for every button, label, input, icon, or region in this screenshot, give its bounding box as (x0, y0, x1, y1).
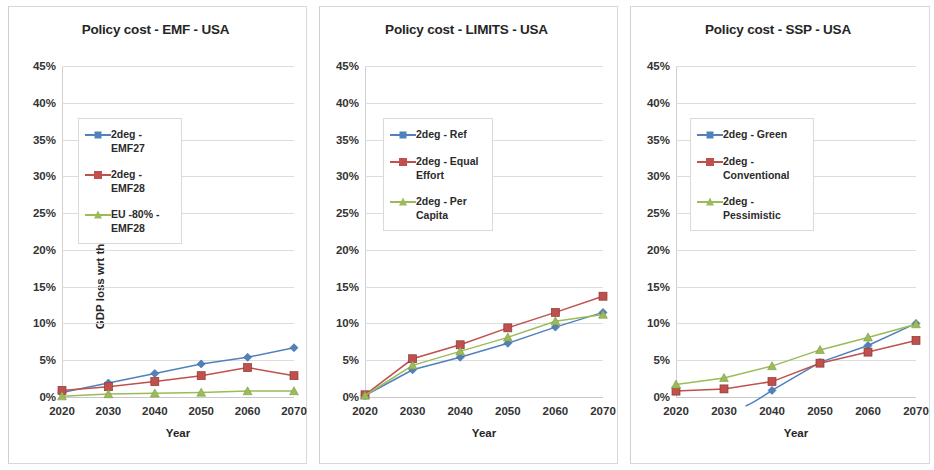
policy-cost-figure: Policy cost - EMF - USA GDP loss wrt the… (0, 0, 934, 470)
y-axis-tick-label: 15% (647, 281, 670, 293)
y-axis-tick-label: 25% (647, 207, 670, 219)
plot-area: 0%5%10%15%20%25%30%35%40%45%202020302040… (62, 66, 294, 397)
chart-panel-emf: Policy cost - EMF - USA GDP loss wrt the… (0, 0, 311, 470)
legend-diamond-marker-icon (697, 128, 723, 142)
legend-square-marker-icon (85, 168, 111, 182)
series-line (365, 315, 603, 396)
legend-item-label: 2deg - Conventional (723, 154, 805, 182)
y-axis-tick-label: 30% (33, 170, 56, 182)
legend-item[interactable]: 2deg - Conventional (697, 154, 805, 182)
y-axis-tick-label: 40% (33, 97, 56, 109)
series-line (365, 312, 603, 395)
y-axis-tick-label: 30% (336, 170, 359, 182)
y-axis-tick-label: 20% (647, 244, 670, 256)
y-axis-tick-label: 45% (647, 60, 670, 72)
chart-legend: 2deg - Ref2deg - Equal Effort2deg - Per … (383, 118, 493, 231)
legend-item-label: 2deg - Green (723, 127, 787, 141)
legend-square-marker-icon (697, 155, 723, 169)
series-line (62, 391, 294, 396)
y-axis-tick-label: 30% (647, 170, 670, 182)
chart-title: Policy cost - SSP - USA (622, 22, 934, 37)
plot-area: 0%5%10%15%20%25%30%35%40%45%202020302040… (676, 66, 916, 397)
series-line (62, 368, 294, 391)
y-axis-tick-label: 25% (336, 207, 359, 219)
y-axis-tick-label: 35% (336, 134, 359, 146)
y-axis-tick-label: 0% (653, 391, 670, 403)
legend-triangle-marker-icon (390, 195, 416, 209)
legend-item[interactable]: 2deg - Per Capita (390, 194, 484, 222)
series-line (365, 296, 603, 395)
y-axis-tick-label: 5% (342, 354, 359, 366)
series-line (676, 324, 916, 384)
legend-item[interactable]: 2deg - EMF28 (85, 167, 173, 195)
y-axis-tick-label: 5% (653, 354, 670, 366)
y-axis-tick-label: 10% (647, 317, 670, 329)
legend-square-marker-icon (390, 155, 416, 169)
legend-item-label: 2deg - Pessimistic (723, 194, 805, 222)
y-axis-tick-label: 25% (33, 207, 56, 219)
legend-triangle-marker-icon (697, 195, 723, 209)
y-axis-tick-label: 45% (336, 60, 359, 72)
y-axis-tick-label: 15% (33, 281, 56, 293)
legend-triangle-marker-icon (85, 208, 111, 222)
y-axis-tick-label: 35% (33, 134, 56, 146)
legend-item-label: 2deg - EMF28 (111, 167, 173, 195)
chart-panel-limits: Policy cost - LIMITS - USA 0%5%10%15%20%… (311, 0, 622, 470)
x-axis-title: Year (365, 427, 603, 439)
series-line-extension (746, 390, 772, 406)
chart-panel-ssp: Policy cost - SSP - USA 0%5%10%15%20%25%… (622, 0, 934, 470)
legend-diamond-marker-icon (390, 128, 416, 142)
y-axis-tick-label: 15% (336, 281, 359, 293)
y-axis-tick-label: 0% (39, 391, 56, 403)
y-axis-tick-label: 20% (33, 244, 56, 256)
y-axis-tick-label: 45% (33, 60, 56, 72)
y-axis-tick-label: 10% (33, 317, 56, 329)
chart-legend: 2deg - EMF272deg - EMF28EU -80% - EMF28 (78, 118, 182, 244)
y-axis-tick-label: 20% (336, 244, 359, 256)
legend-item-label: 2deg - Equal Effort (416, 154, 484, 182)
legend-item-label: 2deg - EMF27 (111, 127, 173, 155)
legend-item[interactable]: 2deg - Equal Effort (390, 154, 484, 182)
chart-legend: 2deg - Green2deg - Conventional2deg - Pe… (690, 118, 814, 231)
legend-item-label: 2deg - Per Capita (416, 194, 484, 222)
legend-item[interactable]: EU -80% - EMF28 (85, 207, 173, 235)
plot-area: 0%5%10%15%20%25%30%35%40%45%202020302040… (365, 66, 603, 397)
legend-item[interactable]: 2deg - EMF27 (85, 127, 173, 155)
legend-item-label: EU -80% - EMF28 (111, 207, 173, 235)
y-axis-tick-label: 0% (342, 391, 359, 403)
series-line (676, 340, 916, 391)
chart-title: Policy cost - EMF - USA (0, 22, 311, 37)
y-axis-tick-label: 35% (647, 134, 670, 146)
y-axis-tick-label: 40% (336, 97, 359, 109)
x-axis-title: Year (62, 427, 294, 439)
chart-title: Policy cost - LIMITS - USA (311, 22, 622, 37)
legend-item[interactable]: 2deg - Pessimistic (697, 194, 805, 222)
y-axis-tick-label: 40% (647, 97, 670, 109)
legend-diamond-marker-icon (85, 128, 111, 142)
y-axis-tick-label: 10% (336, 317, 359, 329)
legend-item[interactable]: 2deg - Ref (390, 127, 484, 142)
y-axis-tick-label: 5% (39, 354, 56, 366)
legend-item[interactable]: 2deg - Green (697, 127, 805, 142)
x-axis-title: Year (676, 427, 916, 439)
legend-item-label: 2deg - Ref (416, 127, 467, 141)
